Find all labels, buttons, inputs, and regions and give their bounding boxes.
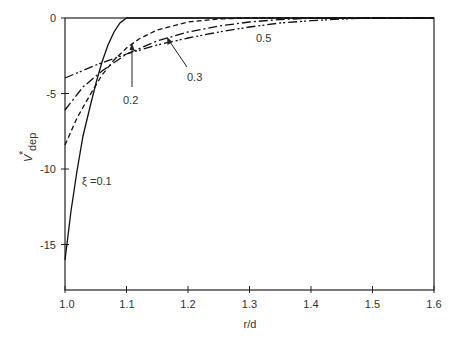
arrowhead-0-2 <box>130 43 135 50</box>
x-tick-1-6: 1.6 <box>426 298 441 310</box>
annotation-0-5: 0.5 <box>256 32 271 44</box>
x-tick-1-4: 1.4 <box>303 298 318 310</box>
series-xi-0-2 <box>65 18 434 145</box>
y-axis-label: V * dep <box>17 133 38 162</box>
y-tick-0: 0 <box>50 12 56 24</box>
y-tick-minus10: -10 <box>40 163 56 175</box>
arrow-0-3 <box>170 42 187 67</box>
x-tick-1-0: 1.0 <box>59 298 74 310</box>
series-xi-0-3 <box>65 18 434 110</box>
y-tick-minus5: -5 <box>46 88 56 100</box>
x-axis-label: r/d <box>244 318 257 330</box>
x-tick-1-5: 1.5 <box>365 298 380 310</box>
y-axis-tick-labels: 0 -5 -10 -15 <box>40 12 56 251</box>
annotation-0-2: 0.2 <box>123 94 138 106</box>
annotation-xi-0-1: ξ =0.1 <box>82 175 112 187</box>
x-tick-1-3: 1.3 <box>242 298 257 310</box>
annotation-0-3: 0.3 <box>187 71 202 83</box>
x-tick-1-1: 1.1 <box>119 298 134 310</box>
series-xi-0-5 <box>65 18 434 78</box>
chart-canvas: 0 -5 -10 -15 1.0 1.1 1.2 1.3 1.4 1.5 1.6… <box>0 0 459 344</box>
x-axis-tick-labels: 1.0 1.1 1.2 1.3 1.4 1.5 1.6 <box>59 298 441 310</box>
y-tick-minus15: -15 <box>40 239 56 251</box>
x-tick-1-2: 1.2 <box>180 298 195 310</box>
y-axis-label-sub: dep <box>26 133 38 151</box>
